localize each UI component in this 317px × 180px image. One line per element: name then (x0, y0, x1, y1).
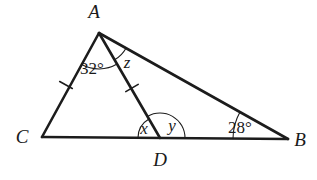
angle-label-32-degrees: 32° (80, 59, 104, 78)
angle-label-x: x (139, 119, 148, 138)
vertex-labels: A C D B (16, 1, 307, 170)
vertex-label-C: C (16, 126, 29, 147)
angle-arcs (82, 48, 240, 138)
vertex-label-B: B (294, 129, 306, 150)
segment-CA (42, 33, 99, 137)
segment-CB (42, 137, 288, 139)
vertex-label-A: A (86, 1, 100, 22)
triangle-diagram-canvas: A C D B 32° z x y 28° (0, 0, 317, 180)
angle-label-z: z (123, 53, 131, 72)
segment-AB (99, 33, 288, 139)
vertex-label-D: D (152, 149, 167, 170)
geometry-figure: A C D B 32° z x y 28° (0, 0, 317, 180)
angle-label-28-degrees: 28° (228, 118, 252, 137)
angle-labels: 32° z x y 28° (80, 53, 252, 138)
angle-label-y: y (166, 116, 176, 135)
